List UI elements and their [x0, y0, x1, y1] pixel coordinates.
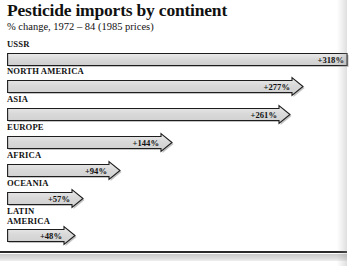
bar-category-label: OCEANIA: [7, 179, 49, 189]
footer-band: [0, 254, 347, 261]
bar-category-label: AFRICA: [7, 151, 41, 161]
chart-plot-area: USSR+318%NORTH AMERICA+277%ASIA+261%EURO…: [0, 40, 347, 240]
bar-value-label: +261%: [251, 110, 277, 120]
bar-category-label: USSR: [7, 40, 30, 50]
bar-value-label: +48%: [40, 231, 62, 241]
bar-value-label: +57%: [48, 194, 70, 204]
bar-value-label: +277%: [264, 82, 290, 92]
bar-category-label: ASIA: [7, 95, 28, 105]
bar-arrow: [7, 77, 307, 99]
bar-value-label: +318%: [318, 55, 344, 65]
chart-title: Pesticide imports by continent: [7, 1, 227, 20]
bar-category-label: EUROPE: [7, 123, 44, 133]
bar-category-label: NORTH AMERICA: [7, 67, 84, 77]
bar-value-label: +144%: [133, 138, 159, 148]
bar-value-label: +94%: [85, 166, 107, 176]
bar-category-label: LATIN AMERICA: [7, 207, 50, 226]
footer-divider: [0, 251, 347, 253]
chart-subtitle: % change, 1972 – 84 (1985 prices): [7, 21, 154, 33]
